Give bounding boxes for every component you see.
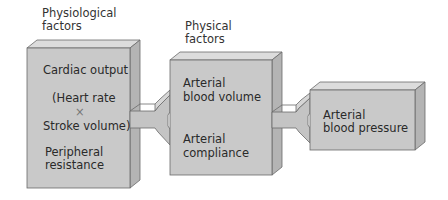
arterial-blood-pressure-label-line2: blood pressure	[323, 122, 408, 135]
arterial-compliance-label-line2: compliance	[183, 147, 249, 160]
arterial-compliance-label-line1: Arterial	[183, 133, 225, 146]
resistance-label: resistance	[45, 159, 104, 172]
heart-rate-label: (Heart rate	[52, 92, 116, 105]
physiological-factors-header: Physiological factors	[42, 7, 117, 33]
physical-factors-header: Physical factors	[185, 20, 232, 46]
multiply-sign: ×	[75, 106, 85, 119]
header-line: factors	[185, 33, 232, 46]
header-line: factors	[42, 20, 117, 33]
arterial-blood-volume-label-line2: blood volume	[183, 91, 261, 104]
arterial-blood-volume-label-line1: Arterial	[183, 77, 225, 90]
stroke-volume-label: Stroke volume)	[43, 120, 130, 133]
cardiac-output-label: Cardiac output	[43, 64, 128, 77]
